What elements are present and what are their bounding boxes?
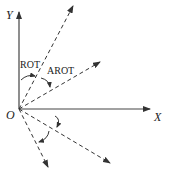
y-axis-label: Y [6,8,14,22]
origin-label: O [6,108,15,122]
arot-label: AROT [47,65,74,76]
lower-arc-arrow-2 [39,131,49,142]
arot-arc-arrow [41,78,50,87]
rot-arc-arrow [21,76,35,81]
rot-label: ROT [20,59,40,70]
rotation-diagram: Y X O ROT AROT [0,0,171,180]
x-axis-label: X [153,110,162,124]
lower-arc-arrow-1 [55,116,59,127]
